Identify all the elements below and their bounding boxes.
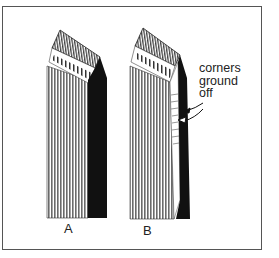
chisel-b xyxy=(130,28,190,219)
chisel-a xyxy=(47,30,107,218)
chisel-illustration xyxy=(0,0,279,258)
annotation-corners-ground-off: corners ground off xyxy=(199,62,241,100)
label-a: A xyxy=(64,222,73,235)
annotation-line-1: corners xyxy=(199,62,241,75)
annotation-line-3: off xyxy=(199,87,241,100)
label-b: B xyxy=(143,224,152,237)
